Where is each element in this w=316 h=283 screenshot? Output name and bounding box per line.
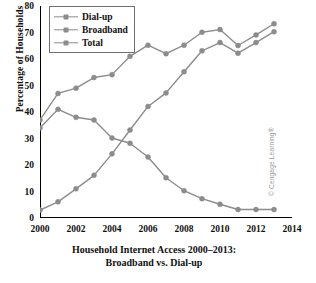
y-tick-label: 30 <box>0 134 34 144</box>
y-tick-label: 0 <box>0 213 34 223</box>
chart-title-line-2: Broadband vs. Dial-up <box>16 256 292 269</box>
y-tick-label: 20 <box>0 160 34 170</box>
chart-figure: Percentage of Households 010203040506070… <box>0 0 316 283</box>
y-tick-label: 50 <box>0 81 34 91</box>
legend-item-dial-up[interactable]: Dial-up <box>54 10 128 23</box>
y-tick-label: 40 <box>0 107 34 117</box>
x-tick-label: 2014 <box>269 224 315 234</box>
y-tick-label: 60 <box>0 54 34 64</box>
y-axis-title: Percentage of Households <box>15 0 25 149</box>
legend-item-broadband[interactable]: Broadband <box>54 23 128 36</box>
chart-legend: Dial-up Broadband Total <box>49 6 135 53</box>
chart-title: Household Internet Access 2000–2013: Bro… <box>16 243 292 269</box>
legend-label: Dial-up <box>82 12 113 22</box>
legend-marker-icon <box>54 25 78 35</box>
legend-label: Broadband <box>82 25 128 35</box>
y-tick-label: 80 <box>0 1 34 11</box>
legend-marker-icon <box>54 12 78 22</box>
chart-title-line-1: Household Internet Access 2000–2013: <box>16 243 292 256</box>
legend-marker-icon <box>54 38 78 48</box>
y-tick-label: 10 <box>0 187 34 197</box>
copyright-credit: © Cengage Learning® <box>268 106 275 196</box>
legend-item-total[interactable]: Total <box>54 36 128 49</box>
y-tick-label: 70 <box>0 28 34 38</box>
legend-label: Total <box>82 38 103 48</box>
